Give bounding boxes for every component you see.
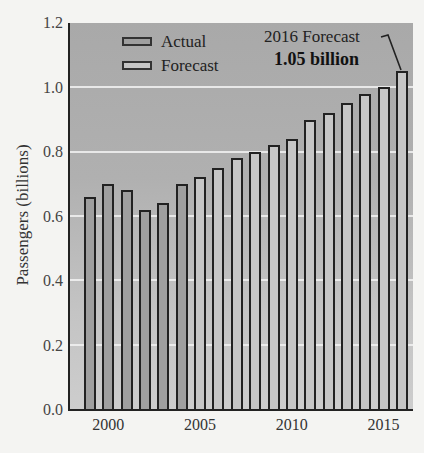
bar-forecast-2012: [323, 113, 335, 409]
bar-forecast-2013: [341, 103, 353, 409]
annotation-2016-value: 1.05 billion: [274, 50, 359, 68]
bar-forecast-2015: [378, 87, 390, 409]
bar-forecast-2016: [396, 71, 408, 409]
x-tick-label: 2010: [267, 417, 317, 433]
x-tick-label: 2000: [83, 417, 133, 433]
legend-label-actual: Actual: [161, 33, 206, 50]
legend-label-forecast: Forecast: [161, 57, 219, 74]
annotation-2016-label: 2016 Forecast: [264, 28, 360, 45]
legend-swatch-actual: [122, 37, 152, 46]
bar-actual-2003: [157, 203, 169, 409]
bar-forecast-2014: [359, 94, 371, 409]
y-tick-label: 0.0: [25, 402, 63, 418]
bar-forecast-2010: [286, 139, 298, 409]
y-tick-label: 0.4: [25, 273, 63, 289]
legend-swatch-forecast: [122, 61, 152, 70]
bar-actual-2004: [176, 184, 188, 409]
bar-chart: Passengers (billions) 0.00.20.40.60.81.0…: [0, 0, 424, 453]
bar-actual-2000: [102, 184, 114, 409]
y-tick-label: 0.2: [25, 338, 63, 354]
bar-forecast-2007: [231, 158, 243, 409]
bar-forecast-2006: [212, 168, 224, 409]
y-tick-label: 1.2: [25, 15, 63, 31]
y-tick-label: 0.8: [25, 144, 63, 160]
bar-forecast-2005: [194, 177, 206, 409]
x-tick-label: 2005: [175, 417, 225, 433]
y-tick-label: 0.6: [25, 209, 63, 225]
bar-forecast-2009: [268, 145, 280, 409]
bar-actual-2002: [139, 210, 151, 409]
bar-actual-2001: [121, 190, 133, 409]
gridline: [70, 86, 413, 88]
bar-forecast-2008: [249, 152, 261, 409]
y-tick-label: 1.0: [25, 80, 63, 96]
x-tick-label: 2015: [359, 417, 409, 433]
bar-forecast-2011: [304, 120, 316, 410]
bar-actual-1999: [84, 197, 96, 409]
plot-area: [68, 23, 413, 411]
